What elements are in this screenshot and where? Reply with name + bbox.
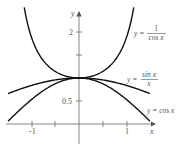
label-sin-over-x: y = sin x x <box>126 70 158 88</box>
svg-text:y =: y = <box>133 29 144 38</box>
y-tick-label-half: 0.5 <box>62 97 72 106</box>
label-cos: y = cos x <box>146 106 175 115</box>
svg-text:x: x <box>146 79 151 88</box>
svg-text:sin x: sin x <box>142 70 157 79</box>
svg-text:1: 1 <box>154 24 158 33</box>
x-tick-label-neg1: -1 <box>29 127 36 136</box>
y-axis-label: y <box>70 9 75 18</box>
label-one-over-cos: y = 1 cos x <box>133 24 166 42</box>
svg-text:cos x: cos x <box>148 33 164 42</box>
function-plot: -1 1 2 0.5 y x y = 1 cos x y = sin x x y… <box>0 0 178 144</box>
x-tick-label-1: 1 <box>125 127 129 136</box>
y-tick-label-2: 2 <box>69 28 73 37</box>
svg-text:y =: y = <box>126 75 137 84</box>
x-axis-label: x <box>149 127 154 136</box>
